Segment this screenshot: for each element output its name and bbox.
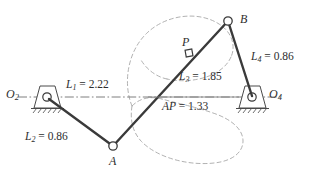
label-l4-subscript: 4 [257, 55, 261, 64]
ground-pivot-o4 [236, 86, 269, 113]
label-dimension-ap: AP = 1.33 [162, 101, 208, 113]
label-point-o4: O4 [269, 88, 282, 102]
label-point-p: P [182, 36, 189, 48]
label-point-o4-subscript: 4 [278, 92, 282, 102]
label-dimension-l4: L4 = 0.86 [251, 51, 294, 64]
label-l3-equals: = [192, 70, 199, 82]
coupler-curve-crossing-segment [141, 60, 167, 79]
label-dimension-l2: L2 = 0.86 [25, 131, 68, 144]
label-l2-value: 0.86 [48, 130, 68, 142]
label-point-o2-subscript: 2 [15, 92, 19, 102]
label-point-b: B [240, 13, 247, 25]
label-l4-equals: = [264, 50, 271, 62]
label-l3-value: 1.85 [202, 70, 222, 82]
label-point-o2: O2 [6, 88, 19, 102]
joint-b [224, 17, 232, 25]
coupler-point-p [185, 49, 193, 57]
label-l3-subscript: 3 [185, 75, 189, 84]
label-l2-equals: = [38, 130, 45, 142]
label-dimension-l3: L3 = 1.85 [179, 71, 222, 84]
label-point-o2-symbol: O [6, 87, 15, 101]
label-l4-value: 0.86 [274, 50, 294, 62]
label-dimension-l1: L1 = 2.22 [66, 79, 109, 92]
label-l1-value: 2.22 [89, 78, 109, 90]
label-ap-equals: = [179, 100, 186, 112]
label-l1-equals: = [79, 78, 86, 90]
coupler-curve-upper-loop [127, 16, 233, 106]
fourbar-linkage-figure: O2 O4 A B P L1 = 2.22 L2 = 0.86 L3 = 1.8… [0, 0, 319, 187]
o2-hatching [33, 109, 62, 114]
label-l1-subscript: 1 [72, 83, 76, 92]
label-l2-subscript: 2 [31, 135, 35, 144]
label-point-a: A [109, 155, 116, 167]
label-point-o4-symbol: O [269, 87, 278, 101]
joint-a [109, 142, 117, 150]
o4-hatching [238, 109, 267, 114]
link-rocker-b-o4 [228, 21, 252, 96]
label-ap-value: 1.33 [188, 100, 208, 112]
label-ap-symbol: AP [162, 100, 176, 112]
ground-pivot-o2 [31, 86, 64, 113]
